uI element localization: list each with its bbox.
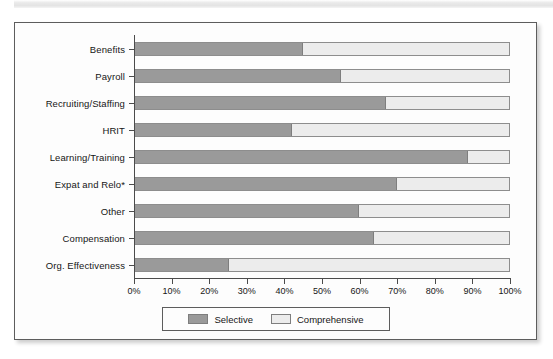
category-label: HRIT <box>0 124 130 135</box>
x-axis-tick-label: 40% <box>275 286 293 296</box>
x-axis-tick-label: 90% <box>463 286 481 296</box>
bar-row: Payroll <box>15 62 536 89</box>
x-axis-tick-label: 10% <box>163 286 181 296</box>
x-axis-tick <box>435 279 436 284</box>
bar-row: Learning/Training <box>15 143 536 170</box>
stacked-bar <box>134 258 510 272</box>
bar-segment-selective <box>135 259 229 271</box>
category-label: Payroll <box>0 70 130 81</box>
bar-segment-selective <box>135 205 359 217</box>
y-axis-tick <box>129 130 134 131</box>
stacked-bar <box>134 96 510 110</box>
legend-swatch-selective <box>188 314 208 324</box>
bar-segment-selective <box>135 178 397 190</box>
y-axis-tick <box>129 211 134 212</box>
stacked-bar <box>134 42 510 56</box>
category-label: Other <box>0 205 130 216</box>
y-axis-tick <box>129 157 134 158</box>
category-label: Learning/Training <box>0 151 130 162</box>
legend-entry: Selective <box>188 314 253 325</box>
y-axis-line <box>134 35 135 278</box>
chart-plot-area: BenefitsPayrollRecruiting/StaffingHRITLe… <box>15 23 536 339</box>
stacked-bar <box>134 231 510 245</box>
bar-segment-selective <box>135 70 341 82</box>
stacked-bar <box>134 150 510 164</box>
y-axis-tick <box>129 49 134 50</box>
x-axis-tick <box>284 279 285 284</box>
legend-entry: Comprehensive <box>271 314 364 325</box>
category-label: Org. Effectiveness <box>0 259 130 270</box>
stacked-bar <box>134 69 510 83</box>
x-axis-tick <box>247 279 248 284</box>
legend-label: Comprehensive <box>297 314 364 325</box>
bar-row: Recruiting/Staffing <box>15 89 536 116</box>
bar-segment-selective <box>135 43 303 55</box>
x-axis-tick-label: 50% <box>313 286 331 296</box>
y-axis-tick <box>129 238 134 239</box>
bar-segment-comprehensive <box>292 124 509 136</box>
x-axis-tick-label: 0% <box>127 286 140 296</box>
category-label: Benefits <box>0 43 130 54</box>
x-axis-tick <box>172 279 173 284</box>
category-label: Compensation <box>0 232 130 243</box>
legend-label: Selective <box>214 314 253 325</box>
x-axis-tick-label: 60% <box>351 286 369 296</box>
bar-segment-selective <box>135 97 386 109</box>
legend-swatch-comprehensive <box>271 314 291 324</box>
y-axis-tick <box>129 265 134 266</box>
stacked-bar <box>134 177 510 191</box>
figure-panel: BenefitsPayrollRecruiting/StaffingHRITLe… <box>14 22 537 340</box>
stacked-bar <box>134 204 510 218</box>
y-axis-tick <box>129 76 134 77</box>
x-axis-tick-label: 30% <box>238 286 256 296</box>
bar-rows: BenefitsPayrollRecruiting/StaffingHRITLe… <box>15 35 536 278</box>
x-axis-tick <box>209 279 210 284</box>
bar-segment-comprehensive <box>386 97 509 109</box>
bar-row: HRIT <box>15 116 536 143</box>
category-label: Expat and Relo* <box>0 178 130 189</box>
x-axis-tick <box>510 279 511 284</box>
bar-segment-comprehensive <box>359 205 509 217</box>
bar-segment-comprehensive <box>468 151 509 163</box>
bar-segment-selective <box>135 124 292 136</box>
x-axis-tick <box>397 279 398 284</box>
bar-row: Other <box>15 197 536 224</box>
bar-row: Compensation <box>15 224 536 251</box>
chart-legend: SelectiveComprehensive <box>162 307 390 331</box>
bar-row: Expat and Relo* <box>15 170 536 197</box>
stacked-bar <box>134 123 510 137</box>
y-axis-tick <box>129 103 134 104</box>
x-axis-tick-label: 100% <box>498 286 521 296</box>
x-axis-tick <box>360 279 361 284</box>
x-axis-tick <box>322 279 323 284</box>
x-axis-tick <box>472 279 473 284</box>
x-axis-tick-label: 20% <box>200 286 218 296</box>
y-axis-tick <box>129 184 134 185</box>
bar-segment-comprehensive <box>397 178 509 190</box>
category-label: Recruiting/Staffing <box>0 97 130 108</box>
bar-segment-comprehensive <box>229 259 510 271</box>
x-axis-tick-label: 70% <box>388 286 406 296</box>
bar-segment-comprehensive <box>374 232 509 244</box>
bar-row: Benefits <box>15 35 536 62</box>
page-scan-band <box>14 0 553 8</box>
bar-segment-selective <box>135 151 468 163</box>
x-axis-tick <box>134 279 135 284</box>
x-axis-tick-label: 80% <box>426 286 444 296</box>
bar-segment-comprehensive <box>341 70 509 82</box>
bar-row: Org. Effectiveness <box>15 251 536 278</box>
bar-segment-comprehensive <box>303 43 509 55</box>
bar-segment-selective <box>135 232 374 244</box>
